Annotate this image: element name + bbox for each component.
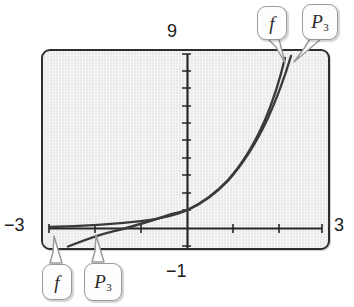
axis-label-xmax: 3 [334,216,344,234]
y-axis [182,54,191,249]
axis-label-ymin: −1 [166,262,187,280]
callout-p3-top-base: P [311,11,323,32]
callout-f-bottom: f [42,264,72,300]
taylor-polynomial-figure: 9 −3 3 −1 f P3 f P3 [0,0,354,307]
curve-p3 [68,56,291,247]
callout-p3-top-sub: 3 [323,21,329,33]
callout-f-top-label: f [269,14,274,33]
callout-p3-top-label: P3 [311,12,329,33]
axis-label-ymax: 9 [167,22,177,40]
callout-p3-bottom-sub: 3 [106,281,112,293]
callout-p3-bottom: P3 [84,263,122,301]
callout-p3-bottom-label: P3 [94,272,112,293]
axis-label-xmin: −3 [4,216,25,234]
curve-f [49,58,285,227]
callout-p3-bottom-base: P [94,271,106,292]
callout-f-top: f [257,6,287,40]
callout-f-bottom-label: f [54,273,59,292]
callout-p3-top: P3 [302,4,338,40]
